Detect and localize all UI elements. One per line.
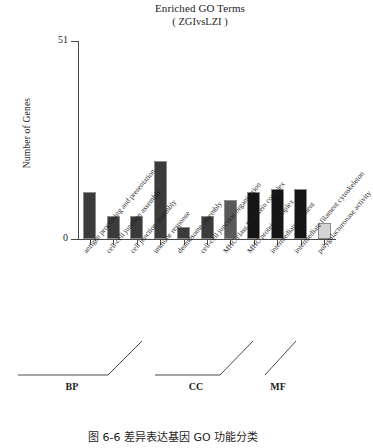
group-bracket-bp <box>18 341 142 375</box>
group-bracket-cc <box>155 341 253 375</box>
figure-caption: 图 6-6 差异表达基因 GO 功能分类 <box>0 428 346 444</box>
group-bracket-mf <box>265 341 296 375</box>
group-label-mf: MF <box>258 381 298 392</box>
group-label-bp: BP <box>52 381 92 392</box>
group-label-cc: CC <box>176 381 216 392</box>
